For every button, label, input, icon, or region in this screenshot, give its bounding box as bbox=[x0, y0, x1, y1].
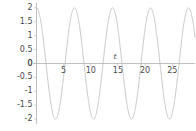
y-tick-label: -2 bbox=[25, 115, 33, 123]
x-tick-label: 25 bbox=[162, 67, 182, 75]
y-tick-label: 1.5 bbox=[20, 18, 33, 26]
y-tick-label: -1.5 bbox=[17, 101, 33, 109]
x-tick-label: 10 bbox=[81, 67, 101, 75]
x-tick-label: 20 bbox=[135, 67, 155, 75]
y-tick-label: -1 bbox=[25, 87, 33, 95]
y-tick-label: 1 bbox=[27, 32, 32, 40]
x-tick-label: 15 bbox=[108, 67, 128, 75]
cosine-plot-figure: 21.510.50-0.5-1-1.5-20 510152025 t bbox=[0, 0, 196, 131]
y-tick-label: -0.5 bbox=[17, 73, 33, 81]
y-tick-label: 0.5 bbox=[20, 46, 33, 54]
axes-group bbox=[33, 3, 195, 124]
y-tick-label: 2 bbox=[27, 4, 32, 12]
x-tick-label: 5 bbox=[54, 67, 74, 75]
x-axis-label: t bbox=[114, 53, 117, 61]
origin-tick-label: 0 bbox=[27, 60, 32, 68]
